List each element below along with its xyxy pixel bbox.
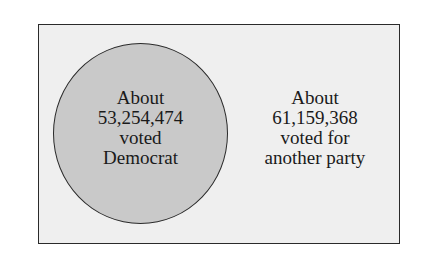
other-label-line-3: voted for [240,128,390,148]
other-party-count: 61,159,368 [240,108,390,128]
other-label-line-1: About [240,88,390,108]
other-label-line-4: another party [240,148,390,168]
democrat-count: 53,254,474 [53,108,228,128]
democrat-label-line-1: About [53,88,228,108]
other-party-label: About 61,159,368 voted for another party [240,88,390,168]
democrat-label-line-4: Democrat [53,148,228,168]
democrat-label-line-3: voted [53,128,228,148]
democrat-set-label: About 53,254,474 voted Democrat [53,88,228,168]
